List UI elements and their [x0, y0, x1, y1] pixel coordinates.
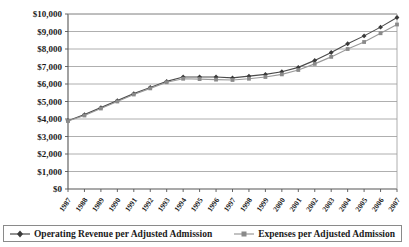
y-tick-label: $3,000	[37, 132, 62, 142]
data-point-marker	[83, 114, 87, 118]
data-point-marker	[198, 77, 202, 81]
y-tick-label: $0	[53, 184, 63, 194]
y-tick-label: $10,000	[33, 9, 63, 19]
x-tick-label: 2007	[386, 196, 402, 214]
data-point-marker	[345, 41, 350, 46]
data-point-marker	[329, 50, 334, 55]
x-tick-label: 2001	[287, 196, 303, 214]
chart-container: $10,000$9,000$8,000$7,000$6,000$5,000$4,…	[0, 0, 409, 247]
x-tick-label: 2004	[337, 196, 353, 214]
x-tick-label: 1996	[205, 196, 221, 214]
x-tick-label: 2002	[304, 196, 320, 214]
x-tick-label: 1998	[238, 196, 254, 214]
y-tick-label: $9,000	[37, 27, 62, 37]
legend-label-expenses: Expenses per Adjusted Admission	[258, 229, 395, 239]
legend-label-operating-revenue: Operating Revenue per Adjusted Admission	[34, 229, 212, 239]
x-tick-label: 1992	[139, 196, 155, 214]
y-tick-label: $4,000	[37, 114, 62, 124]
data-point-marker	[115, 100, 119, 104]
x-tick-label: 1989	[90, 196, 106, 214]
data-point-marker	[99, 107, 103, 111]
x-tick-label: 2000	[271, 196, 287, 214]
data-point-marker	[378, 25, 383, 30]
y-tick-label: $8,000	[37, 44, 62, 54]
data-point-marker	[181, 77, 185, 81]
data-point-marker	[329, 55, 333, 59]
x-tick-label: 1999	[255, 196, 271, 214]
data-point-marker	[346, 47, 350, 51]
data-point-marker	[395, 15, 400, 20]
y-tick-label: $6,000	[37, 79, 62, 89]
x-tick-label: 2005	[353, 196, 369, 214]
legend-item-operating-revenue: Operating Revenue per Adjusted Admission	[10, 229, 212, 239]
x-axis-tick-labels: 1987198819891990199119921993199419951996…	[57, 189, 402, 213]
x-tick-label: 1990	[107, 196, 123, 214]
data-point-marker	[247, 77, 251, 81]
plot-area: $10,000$9,000$8,000$7,000$6,000$5,000$4,…	[0, 0, 409, 222]
data-point-marker	[395, 23, 399, 27]
y-tick-label: $1,000	[37, 167, 62, 177]
data-point-marker	[280, 72, 284, 76]
y-axis-tick-labels: $10,000$9,000$8,000$7,000$6,000$5,000$4,…	[33, 9, 68, 194]
x-tick-label: 1988	[74, 196, 90, 214]
data-point-marker	[165, 80, 169, 84]
line-chart-svg: $10,000$9,000$8,000$7,000$6,000$5,000$4,…	[0, 0, 409, 222]
data-point-marker	[231, 78, 235, 82]
series-line-operating-revenue	[68, 18, 397, 121]
data-point-marker	[313, 62, 317, 66]
x-tick-label: 1994	[172, 196, 188, 214]
diamond-marker-icon	[10, 229, 30, 239]
data-point-marker	[132, 93, 136, 97]
gridlines-group	[68, 14, 397, 172]
y-tick-label: $5,000	[37, 97, 62, 107]
x-tick-label: 1987	[57, 196, 73, 214]
x-tick-label: 1991	[123, 196, 139, 214]
x-tick-label: 1993	[156, 196, 172, 214]
square-marker-icon	[234, 229, 254, 239]
data-point-marker	[148, 86, 152, 90]
x-tick-label: 2003	[320, 196, 336, 214]
x-tick-label: 1995	[189, 196, 205, 214]
data-point-marker	[362, 33, 367, 38]
y-tick-label: $7,000	[37, 62, 62, 72]
data-point-marker	[214, 78, 218, 82]
chart-legend: Operating Revenue per Adjusted Admission…	[3, 225, 402, 242]
data-point-marker	[66, 119, 70, 123]
data-point-marker	[362, 40, 366, 44]
data-point-marker	[264, 75, 268, 79]
series-line-expenses	[68, 25, 397, 122]
y-tick-label: $2,000	[37, 149, 62, 159]
data-point-marker	[379, 31, 383, 35]
legend-item-expenses: Expenses per Adjusted Admission	[234, 229, 395, 239]
x-tick-label: 2006	[370, 196, 386, 214]
x-tick-label: 1997	[222, 196, 238, 214]
data-point-marker	[296, 68, 300, 72]
